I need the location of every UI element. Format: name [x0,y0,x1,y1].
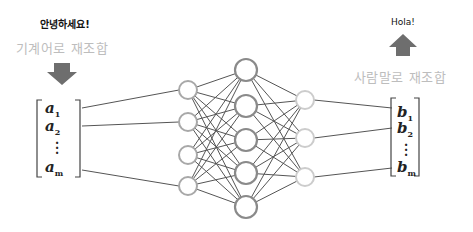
down-arrow-icon [47,63,77,85]
output-process-label: 사람말로 재조합 [354,67,446,86]
input-greeting: 안녕하세요! [40,16,90,31]
up-arrow-icon [389,34,417,56]
output-layer-nodes [296,91,314,186]
input-vector-a1: a1 [45,99,60,119]
input-vector-ellipsis: ··· [55,141,59,156]
output-greeting: Hola! [391,17,415,27]
output-vector-bm: bm [397,158,416,178]
output-vector-b2: b2 [397,119,413,139]
neural-translation-diagram: 안녕하세요! 기계어로 재조합 Hola! 사람말로 재조합 a1 a2 ···… [0,0,473,232]
input-vector-a2: a2 [45,117,60,137]
input-process-label: 기계어로 재조합 [16,38,108,57]
input-vector-am: am [45,158,63,178]
output-vector-ellipsis: ··· [404,143,408,158]
hidden-layer-nodes [235,59,257,218]
